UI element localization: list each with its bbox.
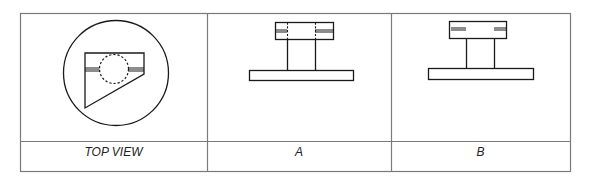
label-top-view: TOP VIEW	[20, 145, 207, 159]
shade-right	[494, 27, 506, 31]
label-b: B	[391, 145, 570, 159]
view-a-drawing	[250, 23, 354, 81]
shade-left	[451, 27, 466, 31]
dashed-hole	[100, 55, 129, 84]
base-plate	[429, 69, 534, 80]
shade-left	[276, 29, 287, 33]
top-view-drawing	[64, 21, 169, 126]
base-plate	[250, 71, 354, 81]
shade-right	[315, 29, 333, 33]
view-b-drawing	[429, 22, 534, 80]
label-a: A	[207, 145, 391, 159]
